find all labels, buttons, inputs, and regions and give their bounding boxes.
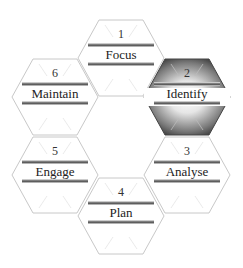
step-number: 1	[77, 28, 165, 40]
step-hexagon-6[interactable]: 6 Maintain	[11, 58, 99, 136]
step-label: Maintain	[11, 86, 99, 102]
step-label: Engage	[11, 164, 99, 180]
step-number: 5	[11, 145, 99, 157]
step-number: 3	[143, 145, 231, 157]
step-label: Identify	[143, 86, 231, 102]
step-hexagon-2[interactable]: 2 Identify	[143, 58, 231, 136]
step-number: 2	[143, 67, 231, 79]
step-hexagon-5[interactable]: 5 Engage	[11, 136, 99, 214]
step-number: 6	[11, 67, 99, 79]
